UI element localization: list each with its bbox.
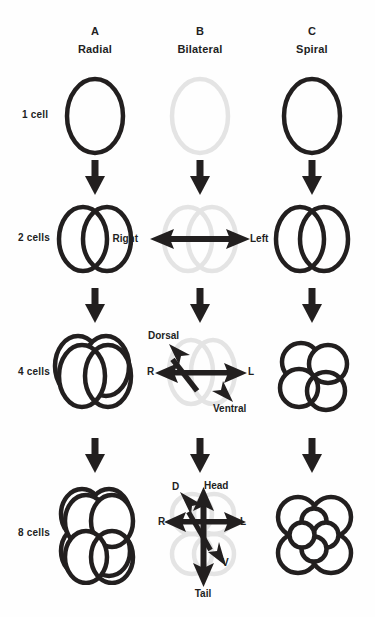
embryo-radial-4-cells (48, 332, 140, 412)
embryo-spiral-2-cells (270, 203, 354, 275)
double-headed-arrow-icon (150, 228, 250, 250)
triple-crossed-arrows-icon (164, 487, 246, 587)
axis-label-r: R (147, 367, 154, 377)
down-arrow-icon (83, 438, 107, 474)
down-arrow-icon (188, 438, 212, 474)
row-label-1-cell: 1 cell (22, 110, 48, 120)
cleavage-patterns-figure: A Radial B Bilateral C Spiral 1 cell 2 c… (0, 0, 375, 617)
down-arrow-icon (300, 438, 324, 474)
column-letter-b: B (196, 26, 204, 37)
embryo-radial-1-cell (60, 75, 130, 157)
embryo-spiral-8-cells (272, 487, 358, 583)
axis-label-right: Right (112, 234, 138, 244)
down-arrow-icon (188, 288, 212, 324)
column-name-bilateral: Bilateral (177, 44, 222, 55)
column-letter-c: C (308, 26, 316, 37)
down-arrow-icon (300, 288, 324, 324)
row-label-4-cells: 4 cells (18, 367, 50, 377)
embryo-spiral-1-cell (277, 75, 347, 157)
column-name-spiral: Spiral (296, 44, 328, 55)
column-letter-a: A (91, 26, 99, 37)
axis-label-l: L (248, 367, 254, 377)
axis-label-tail: Tail (195, 589, 211, 599)
down-arrow-icon (83, 160, 107, 196)
embryo-radial-8-cells (52, 485, 142, 585)
axis-label-left: Left (250, 234, 268, 244)
column-name-radial: Radial (78, 44, 112, 55)
row-label-2-cells: 2 cells (18, 233, 50, 243)
row-label-8-cells: 8 cells (18, 528, 50, 538)
down-arrow-icon (300, 160, 324, 196)
down-arrow-icon (83, 288, 107, 324)
down-arrow-icon (188, 160, 212, 196)
embryo-bilateral-1-cell (165, 75, 235, 157)
embryo-spiral-4-cells (274, 334, 354, 414)
crossed-double-arrows-icon (155, 338, 247, 408)
